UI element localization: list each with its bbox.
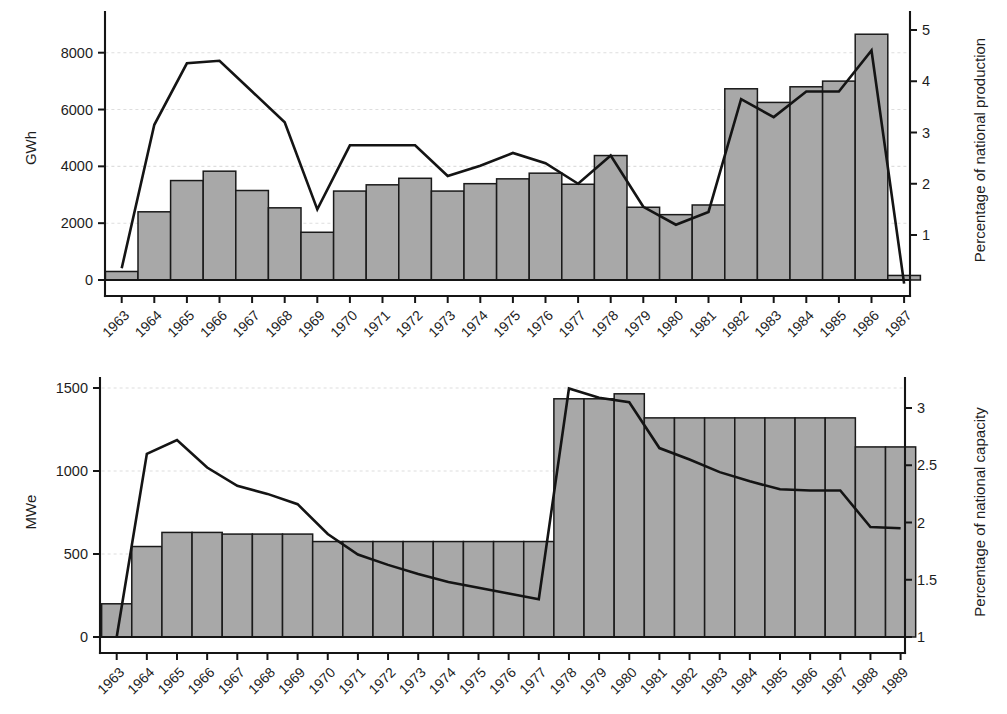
- bar-1968: [252, 534, 282, 637]
- bar-1986: [855, 34, 888, 280]
- x-tick-label-1983: 1983: [697, 664, 730, 697]
- x-tick-label-1981: 1981: [686, 307, 719, 340]
- x-tick-label-1967: 1967: [229, 307, 262, 340]
- right-tick-label-3: 3: [922, 125, 930, 141]
- x-tick-label-1973: 1973: [425, 307, 458, 340]
- bar-1964: [138, 212, 171, 280]
- left-tick-label-4000: 4000: [61, 158, 93, 174]
- left-tick-label-6000: 6000: [61, 102, 93, 118]
- right-tick-label-5: 5: [922, 22, 930, 38]
- x-tick-label-1978: 1978: [546, 664, 579, 697]
- x-tick-label-1986: 1986: [849, 307, 882, 340]
- chart-canvas: 0200040006000800012345196319641965196619…: [0, 0, 1007, 714]
- bar-1966: [192, 532, 222, 637]
- bar-1966: [203, 171, 236, 280]
- x-tick-label-1977: 1977: [516, 664, 549, 697]
- bar-1973: [403, 542, 433, 637]
- bar-1987: [825, 418, 855, 637]
- bar-1970: [334, 191, 367, 280]
- x-tick-label-1974: 1974: [426, 664, 459, 697]
- x-tick-label-1966: 1966: [197, 307, 230, 340]
- right-tick-label-2: 2: [922, 176, 930, 192]
- bar-1963: [105, 271, 138, 280]
- bar-1972: [373, 542, 403, 637]
- bar-1968: [268, 208, 301, 280]
- bar-1988: [855, 447, 885, 637]
- bar-1979: [627, 207, 660, 280]
- x-tick-label-1968: 1968: [245, 664, 278, 697]
- dual-chart-figure: 0200040006000800012345196319641965196619…: [0, 0, 1007, 714]
- x-tick-label-1971: 1971: [360, 307, 393, 340]
- right-tick-label-1.5: 1.5: [917, 572, 937, 588]
- left-tick-label-0: 0: [85, 272, 93, 288]
- left-tick-label-1500: 1500: [56, 380, 88, 396]
- right-tick-label-1: 1: [922, 227, 930, 243]
- x-tick-label-1977: 1977: [555, 307, 588, 340]
- x-tick-label-1980: 1980: [653, 307, 686, 340]
- x-tick-label-1969: 1969: [275, 664, 308, 697]
- bar-1983: [757, 102, 790, 280]
- x-tick-label-1975: 1975: [456, 664, 489, 697]
- x-tick-label-1979: 1979: [621, 307, 654, 340]
- bar-1971: [366, 185, 399, 280]
- bar-1982: [725, 89, 758, 280]
- bar-1964: [132, 547, 162, 637]
- x-tick-label-1988: 1988: [848, 664, 881, 697]
- x-tick-label-1973: 1973: [395, 664, 428, 697]
- bar-1975: [497, 179, 530, 280]
- x-tick-label-1965: 1965: [154, 664, 187, 697]
- bar-1984: [790, 87, 823, 280]
- left-tick-label-500: 500: [64, 546, 88, 562]
- x-tick-label-1972: 1972: [392, 307, 425, 340]
- bar-1965: [162, 532, 192, 637]
- right-axis-title: Percentage of national production: [971, 38, 988, 262]
- bar-1969: [301, 232, 334, 280]
- bar-1986: [795, 418, 825, 637]
- bar-1977: [562, 184, 595, 280]
- x-tick-label-1979: 1979: [576, 664, 609, 697]
- x-tick-label-1964: 1964: [132, 307, 165, 340]
- bar-1980: [614, 394, 644, 637]
- right-tick-label-1: 1: [917, 629, 925, 645]
- bar-1983: [705, 418, 735, 637]
- x-tick-label-1968: 1968: [262, 307, 295, 340]
- x-tick-label-1976: 1976: [523, 307, 556, 340]
- x-tick-label-1965: 1965: [164, 307, 197, 340]
- bar-1977: [524, 542, 554, 637]
- bar-1985: [823, 81, 856, 280]
- right-tick-label-3: 3: [917, 400, 925, 416]
- left-axis-title: MWe: [22, 495, 39, 530]
- bar-1982: [674, 418, 704, 637]
- bar-1974: [464, 184, 497, 280]
- x-tick-label-1987: 1987: [818, 664, 851, 697]
- bar-1973: [431, 191, 464, 280]
- x-tick-label-1963: 1963: [94, 664, 127, 697]
- x-tick-label-1964: 1964: [124, 664, 157, 697]
- x-tick-label-1971: 1971: [335, 664, 368, 697]
- bar-1967: [236, 191, 269, 281]
- x-tick-label-1984: 1984: [727, 664, 760, 697]
- x-tick-label-1978: 1978: [588, 307, 621, 340]
- x-tick-label-1985: 1985: [816, 307, 849, 340]
- x-tick-label-1980: 1980: [607, 664, 640, 697]
- x-tick-label-1970: 1970: [327, 307, 360, 340]
- right-tick-label-2: 2: [917, 515, 925, 531]
- left-axis-title: GWh: [22, 131, 39, 165]
- x-tick-label-1976: 1976: [486, 664, 519, 697]
- x-tick-label-1967: 1967: [215, 664, 248, 697]
- bar-1976: [494, 542, 524, 637]
- right-axis-title: Percentage of national capacity: [971, 407, 988, 617]
- bar-1972: [399, 178, 432, 280]
- left-tick-label-8000: 8000: [61, 45, 93, 61]
- x-tick-label-1982: 1982: [718, 307, 751, 340]
- top-chart: 0200040006000800012345196319641965196619…: [22, 12, 988, 340]
- x-tick-label-1966: 1966: [184, 664, 217, 697]
- x-tick-label-1989: 1989: [878, 664, 911, 697]
- bar-1989: [886, 447, 916, 637]
- x-tick-label-1970: 1970: [305, 664, 338, 697]
- left-tick-label-2000: 2000: [61, 215, 93, 231]
- bar-1976: [529, 173, 562, 280]
- bar-1978: [554, 399, 584, 637]
- x-tick-label-1981: 1981: [637, 664, 670, 697]
- x-tick-label-1986: 1986: [787, 664, 820, 697]
